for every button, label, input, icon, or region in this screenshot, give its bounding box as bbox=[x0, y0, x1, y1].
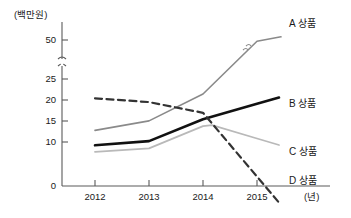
y-tick-label: 20 bbox=[45, 94, 56, 105]
series-c bbox=[95, 125, 279, 152]
series-label-c: C 상품 bbox=[289, 146, 317, 157]
y-tick-label: 0 bbox=[51, 180, 56, 191]
y-tick-label: 25 bbox=[45, 73, 56, 84]
y-axis-unit-label: (백만원) bbox=[14, 9, 47, 20]
x-tick-label: 2013 bbox=[138, 191, 159, 202]
x-tick-label: 2012 bbox=[84, 191, 105, 202]
series-line bbox=[95, 125, 279, 152]
chart-canvas: 010152025502012201320142015(백만원)(년)A 상품B… bbox=[0, 0, 351, 218]
series-line bbox=[95, 98, 279, 146]
y-tick-label: 10 bbox=[45, 136, 56, 147]
series-label-d: D 상품 bbox=[289, 175, 317, 186]
x-tick-label: 2014 bbox=[192, 191, 213, 202]
series-line bbox=[95, 37, 281, 131]
series-label-a: A 상품 bbox=[289, 18, 316, 29]
x-ticks-group: 2012201320142015 bbox=[84, 180, 267, 202]
line-chart: 010152025502012201320142015(백만원)(년)A 상품B… bbox=[0, 0, 351, 218]
y-tick-label: 50 bbox=[45, 34, 56, 45]
x-tick-label: 2015 bbox=[246, 191, 267, 202]
y-tick-label: 15 bbox=[45, 115, 56, 126]
series-label-b: B 상품 bbox=[289, 98, 316, 109]
x-axis-unit-label: (년) bbox=[304, 191, 319, 202]
series-a bbox=[95, 37, 281, 131]
series-b bbox=[95, 98, 279, 146]
